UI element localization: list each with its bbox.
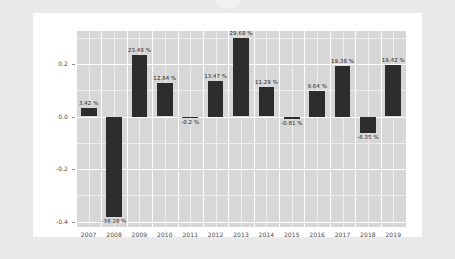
x-axis-tick-label-2019: 2019	[378, 231, 408, 238]
bar-2010[interactable]	[157, 83, 173, 117]
bar-value-label-2008: -38.28 %	[102, 218, 127, 224]
y-axis-tick-label: 0.0	[40, 113, 68, 120]
bar-value-label-2015: -0.81 %	[281, 120, 302, 126]
bar-value-label-2009: 23.49 %	[128, 47, 151, 53]
bar-2011[interactable]	[182, 117, 198, 118]
bar-2016[interactable]	[309, 91, 325, 116]
y-axis-tick-mark	[72, 64, 75, 65]
bar-2008[interactable]	[106, 117, 122, 218]
bar-value-label-2011: -0.2 %	[181, 119, 199, 125]
bar-2007[interactable]	[81, 108, 97, 117]
bar-value-label-2013: 29.68 %	[230, 30, 253, 36]
y-axis-tick-label: 0.2	[40, 60, 68, 67]
chart-card: 3.42 %-38.28 %23.49 %12.84 %-0.2 %13.47 …	[33, 13, 422, 237]
bar-2018[interactable]	[360, 117, 376, 134]
bar-value-label-2007: 3.42 %	[79, 100, 98, 106]
bar-value-label-2017: 19.38 %	[331, 58, 354, 64]
bar-chart-figure: 3.42 %-38.28 %23.49 %12.84 %-0.2 %13.47 …	[33, 13, 422, 237]
y-axis-tick-mark	[72, 117, 75, 118]
bar-value-label-2019: 19.42 %	[382, 57, 405, 63]
bar-2014[interactable]	[259, 87, 275, 117]
gridline-vertical	[406, 31, 407, 227]
bar-2013[interactable]	[233, 38, 249, 116]
bars-layer: 3.42 %-38.28 %23.49 %12.84 %-0.2 %13.47 …	[76, 31, 406, 227]
bar-2012[interactable]	[208, 81, 224, 116]
page-root: 3.42 %-38.28 %23.49 %12.84 %-0.2 %13.47 …	[0, 0, 455, 259]
bar-value-label-2016: 9.64 %	[307, 83, 326, 89]
bar-2019[interactable]	[385, 65, 401, 116]
top-notch-decoration	[215, 0, 241, 9]
bar-2009[interactable]	[132, 55, 148, 117]
plot-area: 3.42 %-38.28 %23.49 %12.84 %-0.2 %13.47 …	[76, 31, 406, 227]
bar-value-label-2010: 12.84 %	[153, 75, 176, 81]
bar-value-label-2014: 11.29 %	[255, 79, 278, 85]
bar-value-label-2018: -6.35 %	[357, 134, 378, 140]
y-axis-tick-mark	[72, 222, 75, 223]
bar-2015[interactable]	[284, 117, 300, 119]
bar-value-label-2012: 13.47 %	[204, 73, 227, 79]
bar-2017[interactable]	[335, 66, 351, 117]
y-axis-tick-mark	[72, 169, 75, 170]
y-axis-tick-label: -0.4	[40, 218, 68, 225]
y-axis-tick-label: -0.2	[40, 165, 68, 172]
